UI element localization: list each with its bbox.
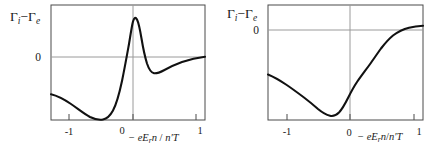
ylabel-minus: − xyxy=(20,9,28,24)
ytick-label-0: 0 xyxy=(35,51,41,63)
chart-svg-left: Γi−Γe 0 -1 0 1 − eErn / n′T xyxy=(0,0,223,156)
xtick-label-minus-1: -1 xyxy=(65,126,74,137)
ylabel-sub-e: e xyxy=(253,13,257,23)
xlabel-slash: / xyxy=(157,132,165,143)
ytick-label-0: 0 xyxy=(253,24,259,36)
xlabel-T: T xyxy=(173,132,180,143)
xtick-label-0: 0 xyxy=(346,127,351,138)
ylabel-left: Γi−Γe xyxy=(10,9,40,26)
xlabel-minus-e: − eE xyxy=(128,132,149,143)
xtick-label-minus-1: -1 xyxy=(283,126,292,137)
xlabel-T: T xyxy=(396,131,403,142)
chart-panel-right: Γi−Γe 0 -1 0 1 − eErn/n′T xyxy=(223,0,446,156)
ylabel-gamma-e: Γ xyxy=(245,6,253,21)
chart-panel-left: Γi−Γe 0 -1 0 1 − eErn / n′T xyxy=(0,0,223,156)
ylabel-minus: − xyxy=(237,6,245,21)
xtick-label-1: 1 xyxy=(197,125,202,136)
ylabel-gamma-i: Γ xyxy=(227,6,235,21)
figure-container: Γi−Γe 0 -1 0 1 − eErn / n′T xyxy=(0,0,447,156)
ylabel-gamma-i: Γ xyxy=(10,9,18,24)
xtick-label-0: 0 xyxy=(119,125,124,136)
ylabel-sub-e: e xyxy=(36,16,40,26)
xlabel-left: − eErn / n′T xyxy=(128,132,180,145)
xlabel-right: − eErn/n′T xyxy=(357,131,403,144)
ylabel-right: Γi−Γe xyxy=(227,6,257,23)
xlabel-minus-e: − eE xyxy=(357,131,378,142)
ylabel-gamma-e: Γ xyxy=(28,9,36,24)
xtick-label-1: 1 xyxy=(416,126,421,137)
chart-svg-right: Γi−Γe 0 -1 0 1 − eErn/n′T xyxy=(223,0,446,156)
